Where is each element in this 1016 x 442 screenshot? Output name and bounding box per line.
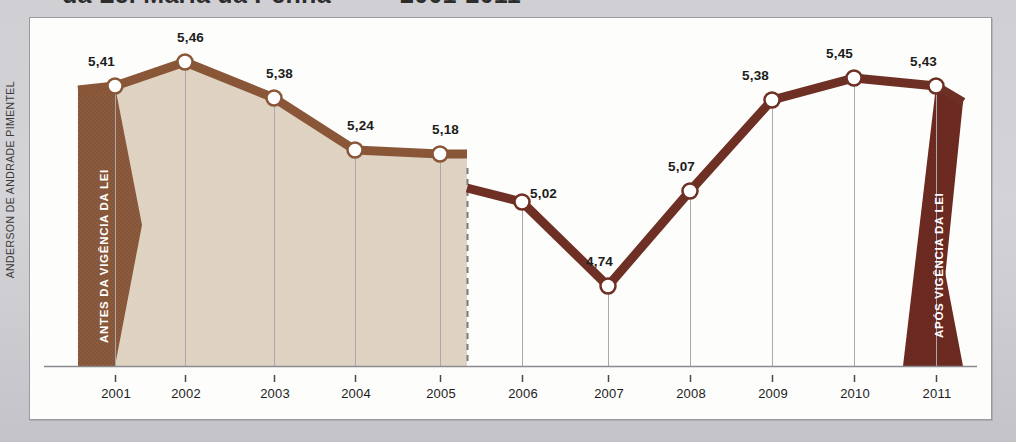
chart-plot-area: ANTES DA VIGÊNCIA DA LEI APÓS VIGÊNCIA D…	[30, 18, 991, 419]
author-credit-text: ANDERSON DE ANDRADE PIMENTEL	[4, 81, 16, 278]
x-axis-ticks	[116, 375, 937, 382]
line-chart-svg	[30, 18, 991, 419]
value-label-2010: 5,45	[826, 46, 853, 61]
value-label-2005: 5,18	[432, 122, 459, 137]
author-credit: ANDERSON DE ANDRADE PIMENTEL	[2, 18, 18, 278]
x-axis-label-2003: 2003	[260, 386, 290, 401]
x-axis-label-2002: 2002	[171, 386, 201, 401]
headline-title: da Lei Maria da Penha	[62, 0, 331, 9]
x-axis-label-2004: 2004	[341, 386, 371, 401]
x-axis-label-2007: 2007	[594, 386, 624, 401]
x-axis-label-2009: 2009	[758, 386, 788, 401]
x-axis-label-2006: 2006	[508, 386, 538, 401]
value-label-2008: 5,07	[668, 159, 695, 174]
x-axis-label-2008: 2008	[676, 386, 706, 401]
x-axis-label-2011: 2011	[923, 386, 952, 401]
value-label-2006: 5,02	[530, 186, 557, 201]
x-axis-label-2010: 2010	[840, 386, 870, 401]
chart-panel: ANTES DA VIGÊNCIA DA LEI APÓS VIGÊNCIA D…	[29, 17, 992, 420]
band-label-before-law: ANTES DA VIGÊNCIA DA LEI	[98, 128, 110, 343]
x-axis-label-2005: 2005	[426, 386, 456, 401]
value-label-2003: 5,38	[266, 66, 293, 81]
series-line-after	[467, 78, 963, 286]
value-label-2011: 5,43	[910, 54, 937, 69]
headline-years: 2001-2011	[400, 0, 521, 9]
value-label-2002: 5,46	[177, 30, 204, 45]
value-label-2001: 5,41	[88, 54, 115, 69]
value-label-2009: 5,38	[742, 68, 769, 83]
x-axis-label-2001: 2001	[101, 386, 131, 401]
value-label-2004: 5,24	[347, 118, 374, 133]
band-label-after-law: APÓS VIGÊNCIA DA LEI	[933, 138, 945, 338]
headline-clipped: da Lei Maria da Penha 2001-2011	[0, 0, 1016, 9]
value-label-2007: 4,74	[586, 254, 613, 269]
